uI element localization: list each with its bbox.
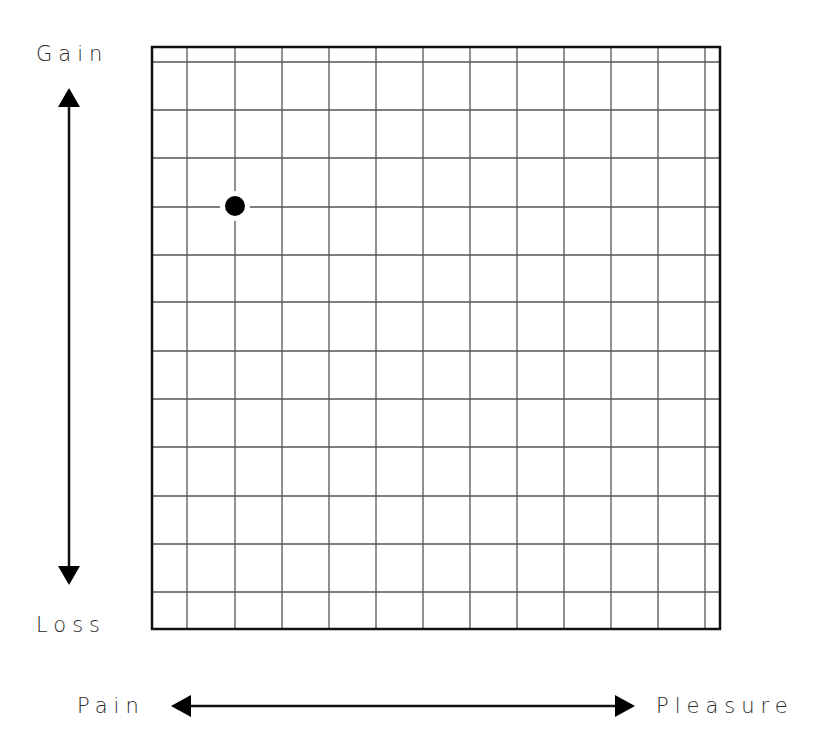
grid-lines [152,47,720,629]
arrow-up-icon [58,88,80,107]
arrow-left-icon [171,695,191,717]
diagram-canvas [0,0,818,749]
gain-label: Gain [36,42,108,66]
grid-frame [152,47,720,629]
pain-label: Pain [77,694,145,718]
vertical-axis-arrow [58,88,80,585]
arrow-down-icon [58,566,80,585]
loss-label: Loss [36,613,106,637]
horizontal-axis-arrow [171,695,635,717]
position-marker-dot [225,196,245,216]
arrow-right-icon [615,695,635,717]
pleasure-label: Pleasure [656,694,794,718]
